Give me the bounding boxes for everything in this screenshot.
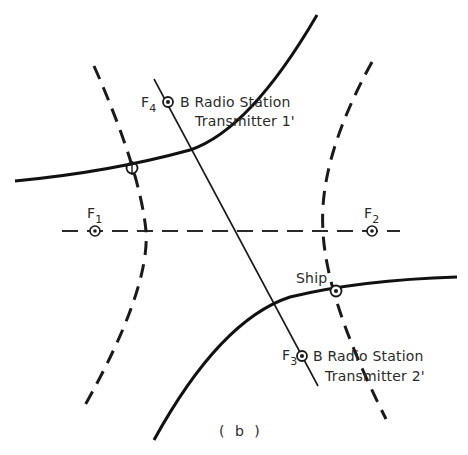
ship-position-marker	[331, 286, 342, 297]
hyperbolic-navigation-diagram: F1 F2 F3 F4 B Radio Station Transmitter …	[0, 0, 468, 455]
label-f1: F1	[87, 206, 102, 220]
focus-marker-f3-transmitter-2	[297, 351, 307, 361]
focus-marker-f4-transmitter-1	[163, 97, 173, 107]
figure-caption: ( b )	[219, 424, 263, 438]
intersection-marker-upper-left	[127, 161, 138, 175]
station-1-transmitter: Transmitter 1'	[195, 114, 295, 128]
diagram-canvas	[0, 0, 468, 455]
focus-marker-f2	[367, 226, 377, 236]
label-f4: F4	[141, 95, 156, 109]
right-dashed-hyperbola-branch	[323, 62, 386, 419]
station-1-name: B Radio Station	[180, 95, 291, 109]
station-2-transmitter: Transmitter 2'	[325, 369, 425, 383]
focus-marker-f1	[90, 226, 100, 236]
label-f3: F3	[282, 348, 297, 362]
label-f2: F2	[364, 206, 379, 220]
ship-label: Ship	[296, 271, 327, 285]
station-2-name: B Radio Station	[313, 349, 424, 363]
